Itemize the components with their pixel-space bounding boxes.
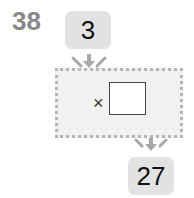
output-value-box: 27	[128, 157, 174, 195]
answer-input-box[interactable]	[109, 82, 146, 115]
multiply-operator: ×	[93, 93, 104, 113]
